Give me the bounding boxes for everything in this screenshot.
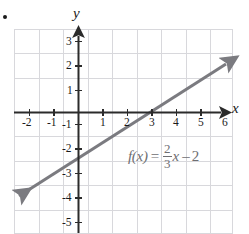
equation-denominator: 3 [163,157,172,170]
y-tick-label--3: -3 [62,168,72,180]
equation-constant: 2 [192,149,200,164]
y-tick-label--2: -2 [62,143,72,155]
x-tick-label--1: -1 [47,117,57,129]
x-tick-label-2: 2 [124,117,130,129]
y-tick-label--4: -4 [62,192,72,204]
equation-minus-sign: – [182,149,190,164]
x-tick-label-1: 1 [100,117,106,129]
x-tick-label-6: 6 [222,117,228,129]
equation-fraction: 2 3 [163,142,172,171]
function-line [19,64,226,196]
function-equation-annotation: f(x) = 2 3 x – 2 [128,142,199,171]
y-axis-label: y [73,6,80,21]
y-tick-label--5: -5 [62,217,72,229]
x-tick-label--2: -2 [22,117,32,129]
equation-variable: x [173,149,180,164]
y-tick-label-1: 1 [67,85,73,97]
x-tick-label-3: 3 [149,117,155,129]
x-tick-label-4: 4 [173,117,179,129]
y-tick-label-2: 2 [66,60,72,72]
equation-function-name: f(x) [128,149,148,164]
y-tick-label--1: -1 [62,119,72,131]
grid-lines [14,29,233,234]
equation-equals-sign: = [151,149,159,164]
y-tick-label-3: 3 [66,36,72,48]
equation-numerator: 2 [163,142,172,155]
tick-marks [30,42,202,223]
graph-figure: y x -2 -1 1 2 3 4 5 6 3 2 1 -1 -2 -3 -4 … [0,0,249,234]
x-axis-label: x [232,101,239,116]
x-tick-label-5: 5 [198,117,204,129]
